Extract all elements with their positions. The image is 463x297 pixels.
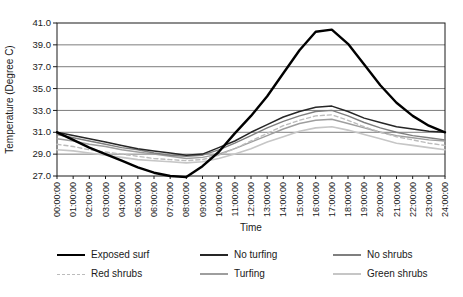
turfing-line-sample-icon (200, 273, 228, 275)
legend-item-no-shrubs: No shrubs (333, 248, 428, 262)
x-tick-label: 17:00:00 (327, 182, 337, 217)
y-tick-label: 39.0 (33, 39, 52, 50)
legend-label-no-shrubs: No shrubs (367, 248, 413, 262)
legend-column-3: No shrubs Green shrubs (333, 248, 428, 286)
legend-label-green-shrubs: Green shrubs (367, 267, 428, 281)
x-tick-label: 06:00:00 (149, 182, 159, 217)
y-tick-label: 37.0 (33, 61, 52, 72)
chart-legend: Exposed surf Red shrubs No turfing Turfi… (0, 246, 463, 296)
exposed-surf-line-sample-icon (57, 254, 85, 256)
x-tick-label: 08:00:00 (181, 182, 191, 217)
y-tick-label: 35.0 (33, 83, 52, 94)
legend-column-2: No turfing Turfing (200, 248, 277, 286)
x-tick-label: 04:00:00 (117, 182, 127, 217)
legend-label-turfing: Turfing (234, 267, 265, 281)
y-tick-label: 33.0 (33, 105, 52, 116)
x-tick-label: 02:00:00 (84, 182, 94, 217)
y-axis-title: Temperature (Degree C) (4, 45, 15, 153)
legend-label-red-shrubs: Red shrubs (91, 267, 142, 281)
legend-label-no-turfing: No turfing (234, 248, 277, 262)
x-tick-label: 15:00:00 (295, 182, 305, 217)
x-tick-label: 01:00:00 (68, 182, 78, 217)
chart-canvas: 27.029.031.033.035.037.039.041.000:00:00… (0, 0, 463, 245)
x-tick-label: 23:00:00 (424, 182, 434, 217)
x-tick-label: 10:00:00 (214, 182, 224, 217)
x-axis-title: Time (240, 222, 262, 233)
y-tick-label: 31.0 (33, 126, 52, 137)
x-tick-label: 09:00:00 (198, 182, 208, 217)
legend-item-green-shrubs: Green shrubs (333, 267, 428, 281)
legend-item-red-shrubs: Red shrubs (57, 267, 149, 281)
red-shrubs-line-sample-icon (57, 274, 85, 275)
x-tick-label: 11:00:00 (230, 182, 240, 216)
x-tick-label: 18:00:00 (343, 182, 353, 217)
x-tick-label: 24:00:00 (440, 182, 450, 217)
x-tick-label: 19:00:00 (359, 182, 369, 217)
legend-item-turfing: Turfing (200, 267, 277, 281)
legend-label-exposed-surf: Exposed surf (91, 248, 149, 262)
temperature-line-chart: 27.029.031.033.035.037.039.041.000:00:00… (0, 0, 463, 245)
x-tick-label: 03:00:00 (101, 182, 111, 217)
no-turfing-line-sample-icon (200, 254, 228, 256)
x-tick-label: 13:00:00 (262, 182, 272, 217)
x-tick-label: 00:00:00 (52, 182, 62, 217)
x-tick-label: 14:00:00 (278, 182, 288, 217)
y-tick-label: 29.0 (33, 148, 52, 159)
y-tick-label: 27.0 (33, 170, 52, 181)
x-tick-label: 22:00:00 (408, 182, 418, 217)
x-tick-label: 20:00:00 (375, 182, 385, 217)
y-tick-label: 41.0 (33, 17, 52, 28)
x-tick-label: 21:00:00 (392, 182, 402, 217)
legend-item-no-turfing: No turfing (200, 248, 277, 262)
x-tick-label: 16:00:00 (311, 182, 321, 217)
green-shrubs-line-sample-icon (333, 273, 361, 275)
x-tick-label: 05:00:00 (133, 182, 143, 217)
x-tick-label: 12:00:00 (246, 182, 256, 217)
legend-item-exposed-surf: Exposed surf (57, 248, 149, 262)
no-shrubs-line-sample-icon (333, 254, 361, 256)
legend-column-1: Exposed surf Red shrubs (57, 248, 149, 286)
x-tick-label: 07:00:00 (165, 182, 175, 217)
